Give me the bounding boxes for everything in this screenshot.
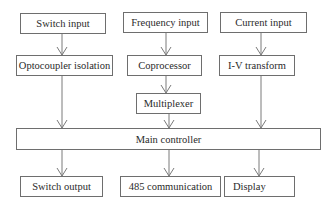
node-iv-transform: I-V transform <box>219 55 295 76</box>
node-main-controller: Main controller <box>16 128 321 150</box>
node-switch-input: Switch input <box>20 13 106 34</box>
node-optocoupler-isolation: Optocoupler isolation <box>16 55 113 76</box>
node-frequency-input: Frequency input <box>123 12 208 33</box>
node-current-input: Current input <box>220 12 307 33</box>
node-multiplexer: Multiplexer <box>136 93 201 114</box>
node-display: Display <box>224 176 295 197</box>
node-485-communication: 485 communication <box>120 176 221 197</box>
node-switch-output: Switch output <box>20 176 103 197</box>
node-coprocessor: Coprocessor <box>127 55 202 76</box>
